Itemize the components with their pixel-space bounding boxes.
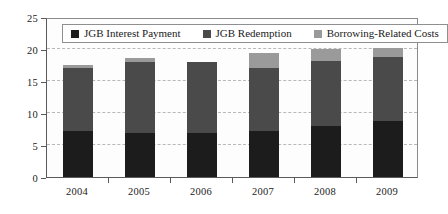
chart-legend: JGB Interest PaymentJGB RedemptionBorrow… bbox=[62, 24, 448, 43]
y-axis-tick-mark bbox=[41, 50, 46, 51]
x-axis-tick-mark bbox=[108, 178, 109, 183]
legend-swatch-icon bbox=[314, 30, 322, 38]
bar-2008 bbox=[311, 49, 341, 177]
legend-item-label: JGB Redemption bbox=[216, 28, 292, 39]
x-axis-tick-mark bbox=[232, 178, 233, 183]
bar-segment bbox=[125, 133, 155, 177]
y-axis-tick-mark bbox=[41, 146, 46, 147]
y-axis-tick-label: 20 bbox=[0, 45, 38, 56]
bar-2006 bbox=[187, 62, 217, 177]
gridline bbox=[47, 48, 417, 49]
bar-segment bbox=[125, 62, 155, 134]
x-axis-tick-label: 2007 bbox=[233, 186, 293, 197]
bar-segment bbox=[311, 126, 341, 177]
legend-item: Borrowing-Related Costs bbox=[314, 28, 439, 39]
bar-segment bbox=[311, 61, 341, 127]
gridline bbox=[47, 144, 417, 145]
legend-item-label: Borrowing-Related Costs bbox=[327, 28, 439, 39]
x-axis-tick-label: 2009 bbox=[357, 186, 417, 197]
y-axis-tick-label: 5 bbox=[0, 141, 38, 152]
y-axis-tick-mark bbox=[41, 114, 46, 115]
y-axis-tick-mark bbox=[41, 178, 46, 179]
x-axis-tick-mark bbox=[294, 178, 295, 183]
x-axis-tick-label: 2005 bbox=[109, 186, 169, 197]
legend-swatch-icon bbox=[203, 30, 211, 38]
bar-segment bbox=[311, 49, 341, 61]
bar-segment bbox=[63, 68, 93, 131]
bar-segment bbox=[63, 131, 93, 177]
legend-item: JGB Redemption bbox=[203, 28, 292, 39]
y-axis-tick-label: 25 bbox=[0, 13, 38, 24]
bar-2005 bbox=[125, 58, 155, 177]
bar-segment bbox=[187, 133, 217, 177]
gridline bbox=[47, 112, 417, 113]
y-axis-tick-label: 0 bbox=[0, 173, 38, 184]
bar-2004 bbox=[63, 65, 93, 177]
bar-segment bbox=[373, 121, 403, 177]
bar-2009 bbox=[373, 48, 403, 177]
bar-segment bbox=[373, 57, 403, 120]
y-axis-tick-mark bbox=[41, 82, 46, 83]
bar-segment bbox=[373, 48, 403, 58]
y-axis-tick-label: 10 bbox=[0, 109, 38, 120]
bar-2007 bbox=[249, 53, 279, 177]
x-axis-tick-mark bbox=[170, 178, 171, 183]
bar-segment bbox=[249, 53, 279, 68]
x-axis-tick-label: 2004 bbox=[47, 186, 107, 197]
x-axis-tick-label: 2008 bbox=[295, 186, 355, 197]
x-axis-tick-label: 2006 bbox=[171, 186, 231, 197]
bar-segment bbox=[187, 62, 217, 132]
y-axis-tick-label: 15 bbox=[0, 77, 38, 88]
legend-item-label: JGB Interest Payment bbox=[84, 28, 181, 39]
legend-swatch-icon bbox=[71, 30, 79, 38]
x-axis-tick-mark bbox=[356, 178, 357, 183]
bar-segment bbox=[249, 68, 279, 131]
y-axis-tick-mark bbox=[41, 18, 46, 19]
gridline bbox=[47, 80, 417, 81]
legend-item: JGB Interest Payment bbox=[71, 28, 181, 39]
bar-segment bbox=[249, 131, 279, 177]
